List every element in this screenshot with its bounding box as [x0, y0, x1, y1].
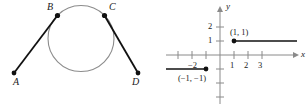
point-a-label: A — [13, 77, 19, 87]
x-axis-label: x — [301, 50, 305, 59]
upper-ray-endpoint-label: (1, 1) — [230, 28, 248, 37]
upper-ray-endpoint-dot — [232, 39, 237, 44]
y-axis-label: y — [226, 2, 230, 11]
y-tick-label: 2 — [208, 22, 212, 31]
point-b-label: B — [47, 2, 53, 12]
x-tick-label: 3 — [258, 61, 262, 70]
segment-cd — [105, 16, 139, 74]
lower-ray-endpoint-label: (−1, −1) — [178, 74, 206, 83]
x-axis-arrowhead — [293, 52, 299, 58]
x-tick-label: 1 — [230, 61, 234, 70]
y-tick-label: 1 — [208, 36, 212, 45]
point-d-label: D — [132, 77, 139, 87]
y-axis-arrowhead — [217, 6, 223, 12]
point-c-dot — [102, 13, 107, 18]
figure-canvas — [0, 0, 307, 110]
right-diagram-group — [166, 6, 299, 104]
lower-ray-endpoint-dot — [204, 67, 209, 72]
point-a-dot — [12, 71, 17, 76]
point-b-dot — [55, 13, 60, 18]
math-figure-panel: A B C D x y (1, 1) (−1, −1) −212321 — [0, 0, 307, 110]
point-c-label: C — [109, 2, 116, 12]
point-d-dot — [136, 71, 141, 76]
left-diagram-group — [12, 6, 141, 76]
segment-ab — [14, 16, 58, 74]
x-tick-label: −2 — [188, 61, 197, 70]
x-tick-label: 2 — [244, 61, 248, 70]
